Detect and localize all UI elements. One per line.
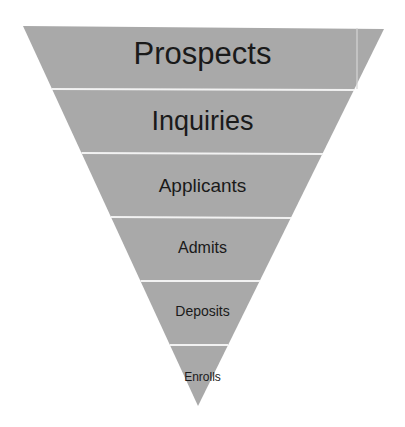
stage-label-prospects: Prospects bbox=[0, 38, 405, 69]
stage-label-deposits: Deposits bbox=[0, 304, 405, 318]
stage-label-inquiries: Inquiries bbox=[0, 108, 405, 135]
divider-1 bbox=[52, 89, 354, 90]
divider-2 bbox=[82, 153, 324, 154]
funnel-shape bbox=[23, 26, 384, 406]
divider-3 bbox=[111, 217, 291, 218]
stage-label-enrolls: Enrolls bbox=[0, 371, 405, 383]
stage-label-applicants: Applicants bbox=[0, 176, 405, 195]
stage-label-admits: Admits bbox=[0, 240, 405, 256]
